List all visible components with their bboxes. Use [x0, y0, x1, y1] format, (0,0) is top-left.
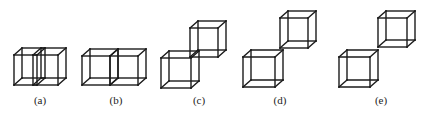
panel-c: [161, 21, 226, 88]
panel-b: [82, 49, 146, 85]
panel-label-a: (a): [34, 94, 46, 106]
panel-label-e: (e): [375, 94, 387, 106]
panel-label-c: (c): [193, 94, 205, 106]
panel-label-d: (d): [274, 94, 287, 106]
cube-wireframe-icon: [339, 50, 378, 87]
cube-wireframe-icon: [110, 49, 146, 85]
cube-wireframe-icon: [190, 21, 226, 57]
cube-wireframe-icon: [280, 11, 316, 48]
cube-configurations-diagram: [0, 0, 423, 118]
panel-a: [14, 48, 66, 85]
cube-wireframe-icon: [243, 50, 283, 87]
panel-label-b: (b): [110, 94, 123, 106]
cube-wireframe-icon: [378, 11, 415, 47]
panel-d: [243, 11, 316, 87]
panel-e: [339, 11, 415, 87]
cubes-layer: [14, 11, 415, 88]
